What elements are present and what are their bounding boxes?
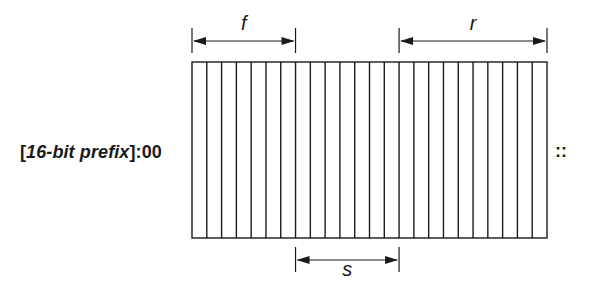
prefix-suffix: ]:00 [129, 142, 161, 162]
bit-cells-box [192, 62, 547, 238]
arrowhead-icon [400, 37, 413, 45]
arrowhead-icon [297, 256, 310, 264]
prefix-label: [16-bit prefix]:00 [20, 142, 162, 163]
dimension-label-r: r [470, 12, 477, 35]
dimension-label-s: s [342, 258, 352, 281]
arrowhead-icon [282, 37, 295, 45]
arrowhead-icon [193, 37, 206, 45]
dimension-label-f: f [241, 12, 247, 35]
arrowhead-icon [533, 37, 546, 45]
trailing-double-colon: :: [555, 141, 567, 162]
arrowhead-icon [385, 256, 398, 264]
prefix-italic-text: 16-bit prefix [26, 142, 129, 162]
